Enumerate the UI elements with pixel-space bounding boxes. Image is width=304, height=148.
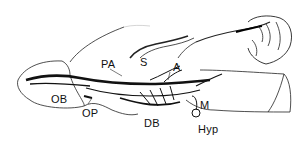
label-hyp: Hyp [198,124,218,135]
brain-diagram: PA S A OB OP DB M Hyp [0,0,304,148]
label-op: OP [82,108,99,119]
label-pa: PA [101,59,115,70]
label-m: M [200,100,209,111]
cortex-outline [70,27,124,62]
label-a: A [173,62,181,73]
label-db: DB [144,118,160,129]
label-s: S [140,57,148,68]
label-ob: OB [51,94,68,105]
brainstem-outline [200,70,291,112]
